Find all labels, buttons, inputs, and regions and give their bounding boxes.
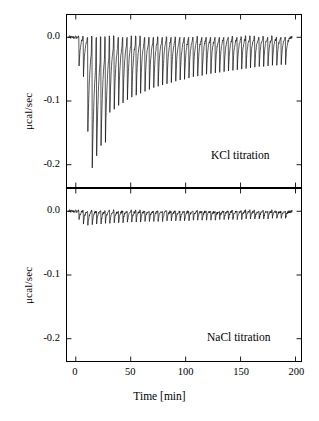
x-tick-label-4: 200 xyxy=(281,366,311,377)
figure: 0.0-0.1-0.20.0-0.1-0.2050100150200 μcal/… xyxy=(0,0,319,421)
y-tick-label-top-0: 0.0 xyxy=(14,30,60,41)
panel-annotation-nacl: NaCl titration xyxy=(207,331,271,343)
y-axis-label-bottom: μcal/sec xyxy=(22,267,34,304)
x-axis-label: Time [min] xyxy=(0,390,319,402)
panel-annotation-kcl: KCl titration xyxy=(211,149,269,161)
x-tick-label-3: 150 xyxy=(226,366,256,377)
y-axis-label-top: μcal/sec xyxy=(22,93,34,130)
x-tick-label-0: 0 xyxy=(60,366,90,377)
y-tick-label-bottom-1: -0.1 xyxy=(14,268,60,279)
x-tick-label-1: 50 xyxy=(115,366,145,377)
kcl-trace-plot xyxy=(67,15,301,187)
x-tick-label-2: 100 xyxy=(171,366,201,377)
chart-panel-kcl xyxy=(66,14,302,188)
y-tick-label-bottom-2: -0.2 xyxy=(14,332,60,343)
y-tick-label-bottom-0: 0.0 xyxy=(14,204,60,215)
y-tick-label-top-1: -0.1 xyxy=(14,94,60,105)
trace-line xyxy=(68,210,292,226)
y-tick-label-top-2: -0.2 xyxy=(14,158,60,169)
